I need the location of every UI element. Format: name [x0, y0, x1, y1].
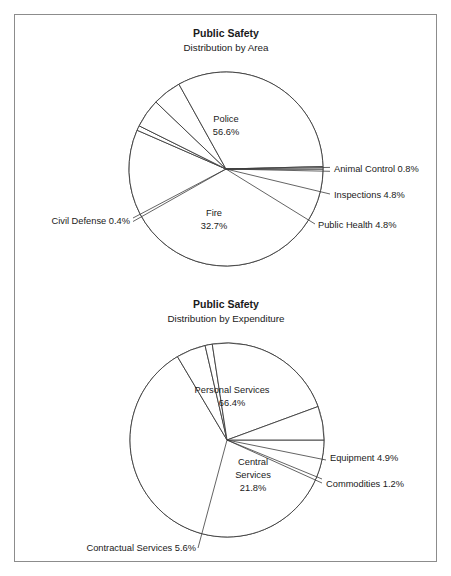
label-personal-services-pct: 66.4% [219, 398, 245, 408]
label-police: Police [213, 114, 238, 124]
label-civil-defense: Civil Defense 0.4% [51, 216, 130, 226]
pie-charts-figure: Public Safety Distribution by Area Polic [0, 0, 451, 576]
label-central-services-pct: 21.8% [240, 483, 266, 493]
label-personal-services: Personal Services [195, 385, 270, 395]
figure-page: Public Safety Distribution by Area Polic [0, 0, 451, 576]
chart-2-title: Public Safety [193, 298, 259, 310]
chart-1: Public Safety Distribution by Area Polic [51, 27, 418, 266]
chart-2-subtitle: Distribution by Expenditure [167, 313, 285, 324]
label-contractual-services: Contractual Services 5.6% [86, 543, 196, 553]
chart-1-title: Public Safety [193, 27, 259, 39]
label-inspections: Inspections 4.8% [334, 190, 405, 200]
label-fire-pct: 32.7% [201, 221, 227, 231]
label-equipment: Equipment 4.9% [330, 453, 398, 463]
label-public-health: Public Health 4.8% [318, 220, 397, 230]
label-commodities: Commodities 1.2% [326, 479, 404, 489]
label-animal-control: Animal Control 0.8% [334, 164, 419, 174]
chart-2: Public Safety Distribution by Expenditur… [86, 298, 404, 553]
label-police-pct: 56.6% [213, 127, 239, 137]
label-fire: Fire [206, 208, 222, 218]
chart-1-subtitle: Distribution by Area [184, 42, 269, 53]
label-central-services-2: Services [235, 470, 271, 480]
label-central-services-1: Central [238, 457, 268, 467]
